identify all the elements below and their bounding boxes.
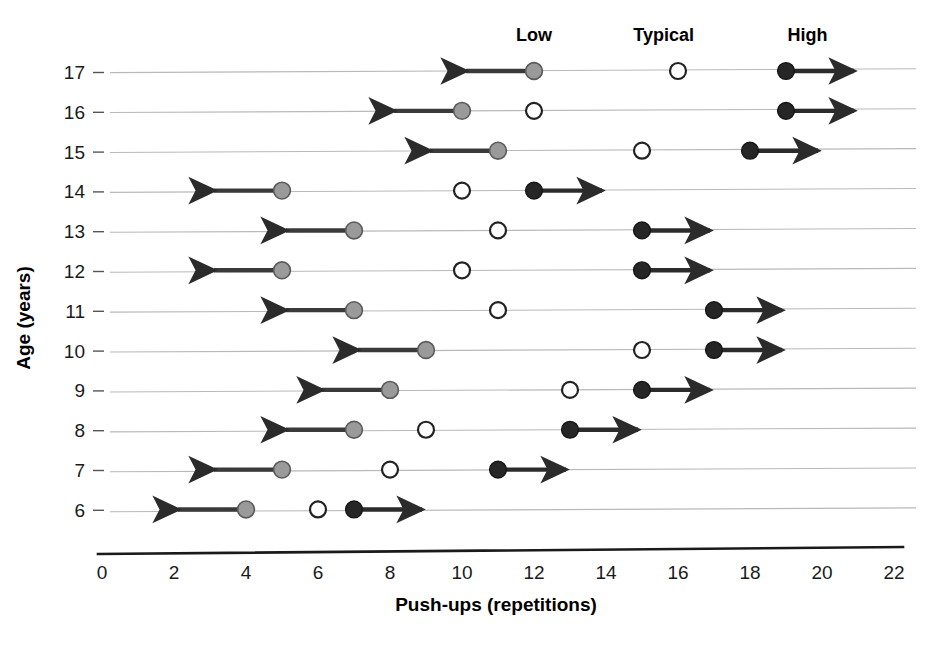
x-tick-label: 14 <box>595 562 617 583</box>
low-marker <box>274 461 291 478</box>
high-marker <box>706 302 723 319</box>
low-marker <box>346 302 363 319</box>
row-gridline <box>110 388 916 392</box>
typical-marker <box>526 103 542 119</box>
age-row-16 <box>394 102 854 119</box>
age-row-7 <box>214 461 566 478</box>
low-marker <box>274 262 291 279</box>
y-axis-title: Age (years) <box>13 266 34 370</box>
low-marker <box>238 501 255 518</box>
low-marker <box>490 142 507 159</box>
data-markers <box>178 63 854 518</box>
pushups-chart: LowTypicalHigh 17161514131211109876 0246… <box>0 0 933 650</box>
low-marker <box>454 102 471 119</box>
y-tick-label: 13 <box>64 221 85 242</box>
high-marker <box>346 501 363 518</box>
row-gridline <box>110 308 916 312</box>
typical-marker <box>382 462 398 478</box>
low-marker <box>418 342 435 359</box>
high-marker <box>634 381 651 398</box>
low-marker <box>346 421 363 438</box>
typical-marker <box>418 422 434 438</box>
high-marker <box>778 63 795 80</box>
y-tick-label: 6 <box>74 500 85 521</box>
column-header-low: Low <box>516 25 553 45</box>
y-axis-ticks <box>93 73 104 511</box>
low-marker <box>346 222 363 239</box>
x-axis-line <box>98 547 903 554</box>
age-row-15 <box>430 142 818 159</box>
row-gridlines <box>110 69 916 512</box>
typical-marker <box>454 262 470 278</box>
column-header-high: High <box>788 25 828 45</box>
typical-marker <box>310 501 326 517</box>
x-tick-label: 20 <box>811 562 832 583</box>
high-marker <box>634 262 651 279</box>
y-tick-label: 8 <box>74 420 85 441</box>
row-gridline <box>110 348 916 352</box>
y-tick-label: 17 <box>64 62 85 83</box>
x-axis-title: Push-ups (repetitions) <box>395 594 597 615</box>
typical-marker <box>562 382 578 398</box>
high-marker <box>490 461 507 478</box>
row-gridline <box>110 228 916 232</box>
typical-marker <box>670 63 686 79</box>
y-tick-label: 10 <box>64 341 85 362</box>
y-tick-label: 15 <box>64 142 85 163</box>
x-tick-label: 18 <box>739 562 760 583</box>
high-marker <box>778 102 795 119</box>
y-tick-label: 14 <box>64 181 86 202</box>
age-row-12 <box>214 262 710 279</box>
high-marker <box>562 421 579 438</box>
x-tick-label: 4 <box>241 562 252 583</box>
x-tick-label: 22 <box>883 562 904 583</box>
age-row-6 <box>178 501 422 518</box>
high-marker <box>634 222 651 239</box>
age-row-13 <box>286 222 710 239</box>
x-tick-label: 8 <box>385 562 396 583</box>
x-tick-label: 16 <box>667 562 688 583</box>
low-marker <box>382 381 399 398</box>
y-tick-label: 11 <box>65 301 85 322</box>
typical-marker <box>490 222 506 238</box>
typical-marker <box>634 342 650 358</box>
x-tick-label: 0 <box>97 562 108 583</box>
y-tick-label: 16 <box>64 102 85 123</box>
low-marker <box>274 182 291 199</box>
column-header-typical: Typical <box>633 25 694 45</box>
chart-canvas: LowTypicalHigh 17161514131211109876 0246… <box>0 0 933 650</box>
x-tick-label: 6 <box>313 562 324 583</box>
y-tick-label: 12 <box>64 261 85 282</box>
age-row-17 <box>466 63 854 80</box>
x-tick-label: 10 <box>451 562 472 583</box>
x-axis <box>98 547 903 554</box>
x-tick-label: 12 <box>523 562 544 583</box>
x-tick-label: 2 <box>169 562 180 583</box>
x-axis-tick-labels: 0246810121416182022 <box>97 562 905 583</box>
row-gridline <box>110 428 916 432</box>
y-tick-label: 7 <box>74 460 85 481</box>
high-marker <box>526 182 543 199</box>
column-headers: LowTypicalHigh <box>516 25 828 45</box>
typical-marker <box>454 183 470 199</box>
low-marker <box>526 63 543 80</box>
high-marker <box>706 342 723 359</box>
typical-marker <box>490 302 506 318</box>
y-axis-tick-labels: 17161514131211109876 <box>64 62 86 521</box>
high-marker <box>742 142 759 159</box>
typical-marker <box>634 143 650 159</box>
y-tick-label: 9 <box>74 380 85 401</box>
